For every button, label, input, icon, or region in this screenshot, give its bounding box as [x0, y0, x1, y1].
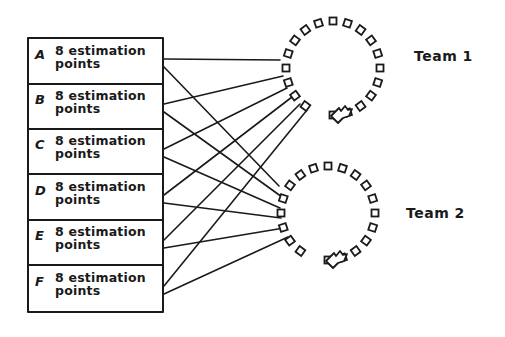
- story-row-b: B 8 estimation points: [29, 84, 162, 130]
- ring-segment: [356, 101, 366, 111]
- connection-d-team2: [164, 203, 281, 218]
- connection-e-team1: [164, 104, 300, 240]
- ring-segment: [372, 210, 379, 217]
- ring-segment: [290, 36, 300, 46]
- story-points: 8 estimation points: [55, 134, 162, 160]
- story-points: 8 estimation points: [55, 180, 162, 206]
- ring-segment: [368, 194, 377, 203]
- ring-segment: [314, 19, 323, 28]
- story-id: B: [35, 92, 45, 107]
- story-row-e: E 8 estimation points: [29, 220, 162, 266]
- ring-segment: [309, 164, 318, 173]
- story-points: 8 estimation points: [55, 271, 162, 297]
- story-points: 8 estimation points: [55, 89, 162, 115]
- ring-segment: [279, 194, 288, 203]
- connection-b-team1: [164, 76, 283, 104]
- story-id: C: [35, 137, 45, 152]
- story-list: A 8 estimation points B 8 estimation poi…: [27, 37, 164, 313]
- story-id: A: [35, 47, 45, 62]
- ring-segment: [368, 223, 377, 232]
- ring-segment: [284, 78, 293, 87]
- story-id: F: [35, 274, 44, 289]
- ring-segment: [301, 25, 311, 35]
- story-id: E: [35, 228, 44, 243]
- connection-a-team2: [164, 67, 279, 186]
- connection-b-team2: [164, 112, 282, 197]
- ring-segment: [296, 246, 306, 256]
- ring-segment: [373, 49, 382, 58]
- story-row-a: A 8 estimation points: [29, 39, 162, 85]
- ring-segment: [338, 164, 347, 173]
- ring-segment: [279, 223, 288, 232]
- story-points: 8 estimation points: [55, 225, 162, 251]
- ring-segment: [361, 181, 371, 191]
- ring-segment: [356, 25, 366, 35]
- ring-segment: [343, 19, 352, 28]
- connection-c-team1: [164, 88, 287, 149]
- story-id: D: [35, 183, 46, 198]
- ring-segment: [285, 181, 295, 191]
- ring-segment: [325, 163, 332, 170]
- team-1-label: Team 1: [414, 48, 473, 64]
- connection-lines: [164, 59, 307, 294]
- story-row-c: C 8 estimation points: [29, 129, 162, 175]
- ring-segment: [377, 65, 384, 72]
- story-row-f: F 8 estimation points: [29, 266, 162, 312]
- ring-segment: [351, 246, 361, 256]
- ring-segment: [301, 101, 311, 111]
- ring-segment: [373, 78, 382, 87]
- ring-segment: [361, 236, 371, 246]
- ring-segment: [290, 91, 300, 101]
- connection-e-team2: [164, 228, 284, 248]
- connection-a-team1: [164, 59, 280, 60]
- team-2-circle: [278, 163, 379, 269]
- ring-segment: [283, 65, 290, 72]
- story-points: 8 estimation points: [55, 44, 162, 70]
- ring-segment: [351, 170, 361, 180]
- ring-segment: [284, 49, 293, 58]
- ring-segment: [330, 18, 337, 25]
- team-2-label: Team 2: [406, 205, 465, 221]
- ring-segment: [278, 210, 285, 217]
- ring-segment: [296, 170, 306, 180]
- ring-segment: [366, 36, 376, 46]
- team-circles: [278, 18, 384, 269]
- ring-segment: [366, 91, 376, 101]
- story-row-d: D 8 estimation points: [29, 175, 162, 221]
